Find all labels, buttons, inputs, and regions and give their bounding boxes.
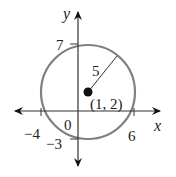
y-axis-label: y <box>61 5 71 23</box>
tick-label-7: 7 <box>56 37 64 53</box>
tick-label-6: 6 <box>128 128 136 144</box>
origin-label: 0 <box>64 117 72 133</box>
circle-diagram: y x 0 7 −4 −3 6 5 (1, 2) <box>0 0 176 177</box>
tick-label-neg3: −3 <box>46 136 62 152</box>
x-axis-label: x <box>153 117 161 134</box>
center-label: (1, 2) <box>90 96 123 113</box>
radius-label: 5 <box>92 63 100 79</box>
tick-label-neg4: −4 <box>24 126 40 142</box>
